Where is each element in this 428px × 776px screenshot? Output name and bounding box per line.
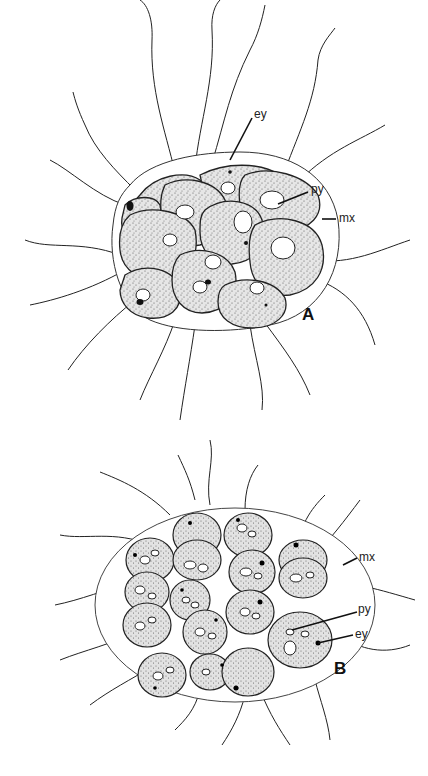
label-a-ey: ey — [254, 107, 267, 121]
panel-label-a: A — [302, 305, 314, 324]
figure-canvas: ey py mx A — [0, 0, 428, 776]
label-b-mx: mx — [359, 550, 375, 564]
label-b-py: py — [358, 602, 371, 616]
panel-b: mx py ey B — [55, 440, 415, 745]
panel-label-b: B — [334, 659, 346, 678]
panel-a: ey py mx A — [25, 0, 410, 420]
label-a-py: py — [311, 182, 324, 196]
label-b-ey: ey — [355, 627, 368, 641]
label-a-mx: mx — [339, 211, 355, 225]
